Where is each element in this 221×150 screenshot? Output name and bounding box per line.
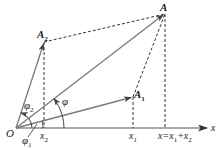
label-x2: x2 [39,130,48,144]
phasor-diagram: A A2 A1 O x φ φ2 φ1 x2 x1 x=x1+x2 [0,0,221,150]
label-a2: A2 [36,28,48,43]
label-phi: φ [62,95,68,107]
label-phi2: φ2 [24,99,34,114]
label-origin: O [6,127,14,139]
label-phi1: φ1 [22,134,32,149]
construction-lines [44,14,165,128]
label-x1: x1 [128,130,137,144]
vector-oa2 [16,44,44,128]
label-x-axis: x [210,122,216,133]
arc-phi1 [42,121,43,128]
phi1-leader [28,124,37,137]
label-a: A [159,1,167,13]
label-a1: A1 [133,88,145,103]
label-x-sum: x=x1+x2 [157,130,192,144]
arc-phi-base [62,116,64,128]
